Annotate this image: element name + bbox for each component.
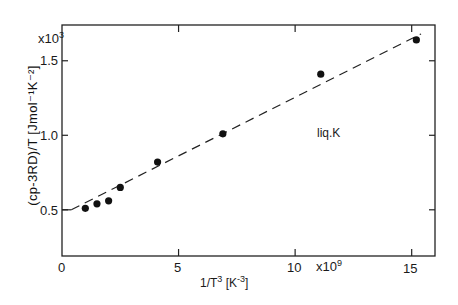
- y-tick-label-15: 1.5: [40, 53, 58, 68]
- data-point: [93, 200, 100, 207]
- data-point: [117, 184, 124, 191]
- chart-annotation: liq.K: [317, 126, 340, 140]
- plot-area: [0, 0, 458, 305]
- data-point: [219, 130, 226, 137]
- x-tick-label-5: 5: [174, 260, 181, 275]
- y-tick-label-05: 0.5: [40, 203, 58, 218]
- data-point: [154, 159, 161, 166]
- fit-line-dashed: [71, 34, 421, 210]
- y-multiplier: x103: [38, 30, 64, 46]
- x-tick-label-0: 0: [58, 260, 65, 275]
- data-point: [105, 197, 112, 204]
- x-axis-label: 1/T3 [K-3]: [200, 274, 248, 290]
- y-tick-label-10: 1.0: [40, 128, 58, 143]
- data-point: [317, 71, 324, 78]
- data-points: [82, 36, 420, 212]
- axis-ticks: [62, 25, 435, 256]
- axes-frame: [62, 25, 435, 256]
- fit-line: [62, 34, 421, 210]
- axes-border: [62, 25, 435, 256]
- x-multiplier: x109: [316, 258, 342, 274]
- data-point: [413, 36, 420, 43]
- x-tick-label-10: 10: [287, 260, 301, 275]
- data-point: [82, 205, 89, 212]
- y-axis-label: (cp-3RD)/T [Jmol⁻¹K⁻²]: [25, 26, 40, 246]
- x-tick-label-15: 15: [403, 261, 417, 276]
